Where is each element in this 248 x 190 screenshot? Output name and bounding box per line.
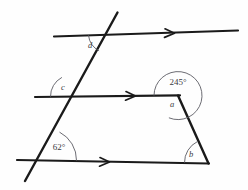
geometry-diagram: d c 62° 245° a b [0, 0, 248, 190]
angle-label-c: c [61, 82, 65, 92]
angle-label-a: a [170, 99, 174, 109]
quadrilateral-right-side [178, 96, 209, 164]
bottom-parallel-line [17, 160, 209, 164]
angle-label-b: b [189, 149, 193, 159]
angle-label-245: 245° [169, 77, 187, 87]
angle-label-62: 62° [53, 142, 66, 152]
top-parallel-line [54, 31, 238, 37]
middle-parallel-line [35, 95, 180, 97]
geometry-svg-canvas: d c 62° 245° a b [0, 0, 248, 190]
